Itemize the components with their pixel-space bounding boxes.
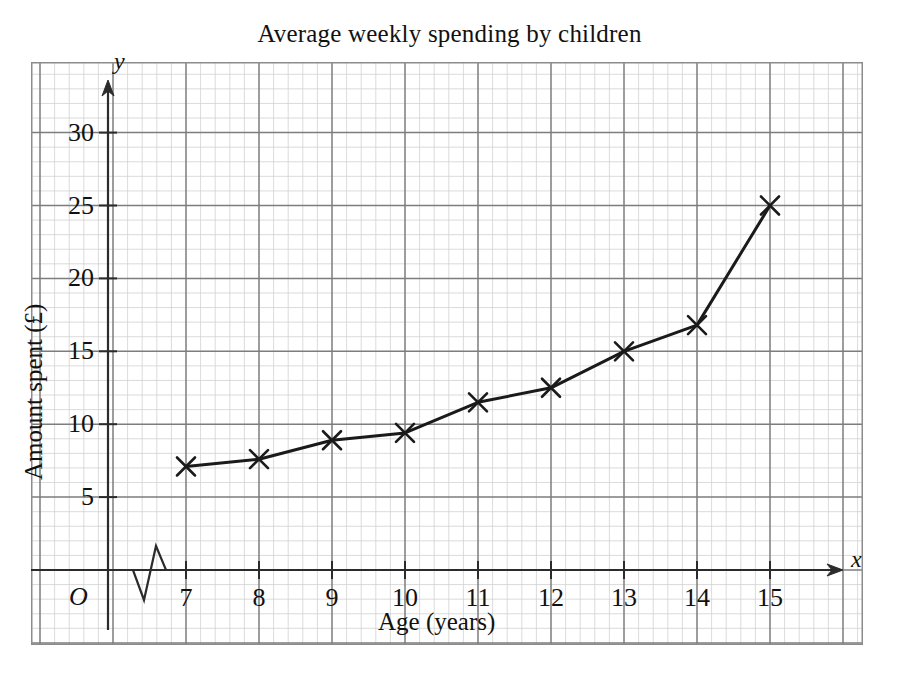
x-tick-label-15: 15 xyxy=(757,583,783,613)
x-axis-title: Age (years) xyxy=(378,608,495,636)
y-axis-variable-label: y xyxy=(114,48,125,75)
x-tick-label-12: 12 xyxy=(538,583,564,613)
plot-background xyxy=(31,62,863,645)
x-tick-label-8: 8 xyxy=(253,583,266,613)
origin-label: O xyxy=(69,582,88,612)
chart-svg xyxy=(31,62,863,645)
x-tick-label-7: 7 xyxy=(180,583,193,613)
y-tick-label-30: 30 xyxy=(68,118,94,148)
y-tick-label-25: 25 xyxy=(68,191,94,221)
page-title: Average weekly spending by children xyxy=(0,20,899,48)
x-tick-label-9: 9 xyxy=(326,583,339,613)
x-axis-variable-label: x xyxy=(851,546,862,573)
plot-area: 51015202530 789101112131415 O x y xyxy=(31,62,863,645)
y-tick-label-10: 10 xyxy=(68,409,94,439)
x-tick-label-14: 14 xyxy=(684,583,710,613)
x-tick-label-13: 13 xyxy=(611,583,637,613)
y-axis-title: Amount spent (£) xyxy=(20,304,48,480)
y-tick-label-20: 20 xyxy=(68,263,94,293)
y-tick-label-5: 5 xyxy=(81,482,94,512)
y-tick-label-15: 15 xyxy=(68,336,94,366)
chart-page: Average weekly spending by children 5101… xyxy=(0,0,899,678)
